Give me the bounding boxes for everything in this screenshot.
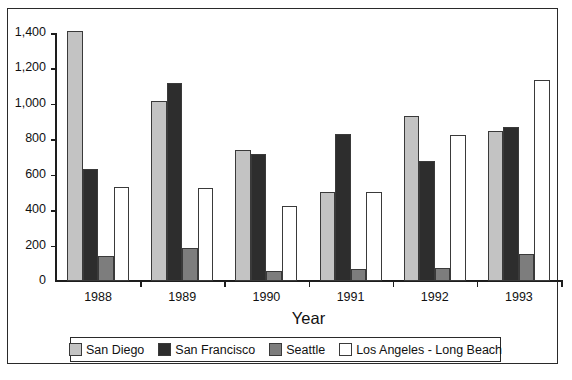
bar-seattle-1992 <box>435 268 451 281</box>
bar-group <box>393 33 477 281</box>
legend-swatch-icon <box>69 343 82 356</box>
bar-san-diego-1989 <box>151 101 167 281</box>
bar-san-francisco-1988 <box>83 169 99 281</box>
legend-swatch-icon <box>269 343 282 356</box>
bar-group <box>56 33 140 281</box>
legend-entry: Los Angeles - Long Beach <box>339 343 502 357</box>
x-axis-label-1988: 1988 <box>53 290 143 304</box>
x-axis-label-1993: 1993 <box>474 290 564 304</box>
y-tick-label: 0 <box>2 274 46 287</box>
bar-san-diego-1991 <box>320 192 336 281</box>
y-tick-label: 1,000 <box>2 97 46 110</box>
bar-seattle-1988 <box>98 256 114 281</box>
x-axis-label-1991: 1991 <box>306 290 396 304</box>
x-tick-mark <box>561 280 563 287</box>
x-tick-mark <box>393 280 395 287</box>
bar-group <box>224 33 308 281</box>
bar-san-diego-1992 <box>404 116 420 281</box>
bar-san-diego-1993 <box>488 131 504 281</box>
bar-seattle-1990 <box>266 271 282 281</box>
plot-area <box>56 33 561 281</box>
x-tick-mark <box>140 280 142 287</box>
legend-label: San Diego <box>86 343 144 357</box>
bar-los-angeles-long-beach-1993 <box>534 80 550 281</box>
bar-san-francisco-1993 <box>503 127 519 281</box>
bar-los-angeles-long-beach-1992 <box>450 135 466 281</box>
bar-san-diego-1988 <box>67 31 83 281</box>
y-tick-label: 1,400 <box>2 26 46 39</box>
x-tick-mark <box>477 280 479 287</box>
x-axis-label-1989: 1989 <box>137 290 227 304</box>
bar-los-angeles-long-beach-1989 <box>198 188 214 281</box>
x-axis-label-1992: 1992 <box>390 290 480 304</box>
legend-label: Seattle <box>286 343 325 357</box>
bar-seattle-1989 <box>182 248 198 281</box>
legend-label: Los Angeles - Long Beach <box>356 343 502 357</box>
legend-entry: San Diego <box>69 343 144 357</box>
y-tick-label: 1,200 <box>2 61 46 74</box>
legend-label: San Francisco <box>175 343 255 357</box>
bar-group <box>140 33 224 281</box>
bar-los-angeles-long-beach-1988 <box>114 187 130 281</box>
chart-frame: 1,4001,2001,0008006004002000 Year San Di… <box>7 8 558 364</box>
bar-group <box>477 33 561 281</box>
bar-group <box>309 33 393 281</box>
bar-san-francisco-1990 <box>251 154 267 281</box>
x-axis-label-1990: 1990 <box>221 290 311 304</box>
bar-los-angeles-long-beach-1990 <box>282 206 298 281</box>
y-tick-label: 400 <box>2 203 46 216</box>
legend-swatch-icon <box>158 343 171 356</box>
bar-san-francisco-1991 <box>335 134 351 281</box>
legend-swatch-icon <box>339 343 352 356</box>
legend-entry: Seattle <box>269 343 325 357</box>
bar-san-francisco-1992 <box>419 161 435 281</box>
x-tick-mark <box>309 280 311 287</box>
legend-entry: San Francisco <box>158 343 255 357</box>
x-axis-title: Year <box>56 309 561 328</box>
bar-seattle-1993 <box>519 254 535 281</box>
bar-san-francisco-1989 <box>167 83 183 281</box>
bar-san-diego-1990 <box>235 150 251 281</box>
y-tick-label: 600 <box>2 168 46 181</box>
bar-los-angeles-long-beach-1991 <box>366 192 382 281</box>
bar-seattle-1991 <box>351 269 367 281</box>
y-tick-label: 200 <box>2 239 46 252</box>
chart-legend: San DiegoSan FranciscoSeattleLos Angeles… <box>70 337 501 362</box>
y-tick-label: 800 <box>2 132 46 145</box>
x-tick-mark <box>224 280 226 287</box>
